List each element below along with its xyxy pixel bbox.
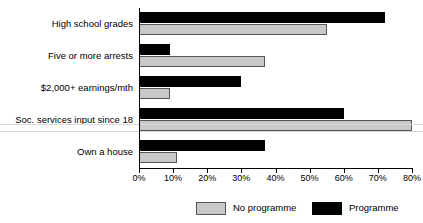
legend-swatch-no-programme <box>196 202 226 215</box>
bar-group-high-school-grades <box>139 8 412 40</box>
bar-programme-soc-services-input <box>139 108 344 119</box>
category-label-high-school-grades: High school grades <box>0 18 133 30</box>
cropped-title-remnant <box>8 0 308 3</box>
x-axis-tick-label: 10% <box>158 173 188 184</box>
x-axis-tick-label: 60% <box>329 173 359 184</box>
bar-no-programme-own-a-house <box>139 152 177 163</box>
bar-no-programme-high-school-grades <box>139 24 327 35</box>
y-axis-line <box>139 8 140 168</box>
category-label-five-or-more-arrests: Five or more arrests <box>0 50 133 62</box>
x-axis-tick-label: 20% <box>192 173 222 184</box>
x-axis-tick-label: 40% <box>261 173 291 184</box>
legend-item-programme: Programme <box>312 199 399 217</box>
x-axis-tick-label: 30% <box>226 173 256 184</box>
category-label-own-a-house: Own a house <box>0 146 133 158</box>
bar-programme-high-school-grades <box>139 12 385 23</box>
x-axis-tick-label: 50% <box>295 173 325 184</box>
bar-programme-earnings <box>139 76 241 87</box>
plot-area <box>139 8 412 168</box>
legend-label-programme: Programme <box>349 202 399 214</box>
bar-group-five-or-more-arrests <box>139 40 412 72</box>
bar-programme-five-or-more-arrests <box>139 44 170 55</box>
bar-no-programme-five-or-more-arrests <box>139 56 265 67</box>
legend-label-no-programme: No programme <box>233 202 296 214</box>
x-axis-tick-label: 70% <box>363 173 393 184</box>
bar-group-soc-services-input <box>139 104 412 136</box>
bar-chart-figure: High school grades Five or more arrests … <box>0 0 423 223</box>
legend-item-no-programme: No programme <box>196 199 296 217</box>
bar-programme-own-a-house <box>139 140 265 151</box>
chart-legend: No programme Programme <box>0 196 423 222</box>
bar-group-earnings <box>139 72 412 104</box>
bar-no-programme-earnings <box>139 88 170 99</box>
legend-swatch-programme <box>312 202 342 215</box>
bar-no-programme-soc-services-input <box>139 120 412 131</box>
category-label-earnings: $2,000+ earnings/mth <box>0 82 133 94</box>
category-label-soc-services-input: Soc. services input since 18 <box>0 114 133 126</box>
x-axis-tick-label: 0% <box>124 173 154 184</box>
x-axis-tick-label: 80% <box>397 173 423 184</box>
bar-group-own-a-house <box>139 136 412 168</box>
